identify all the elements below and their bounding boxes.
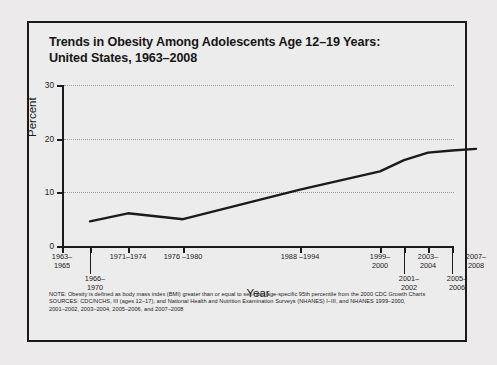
x-label-2007-2008: 2007– 2008: [466, 253, 486, 270]
x-label-1976-1980: 1976 –1980: [164, 253, 203, 262]
x-label-1971-1974: 1971–1974: [110, 253, 147, 262]
chart-title-line-1: Trends in Obesity Among Adolescents Age …: [49, 35, 380, 49]
obesity-trend-line: [90, 149, 476, 221]
x-label-1971-1974-line-1: 1971–1974: [110, 252, 147, 261]
figure-panel: Trends in Obesity Among Adolescents Age …: [27, 21, 467, 342]
x-label-1966-1970: 1966– 1970: [85, 275, 105, 292]
x-label-2003-2004-line-2: 2004: [420, 261, 436, 270]
footnote-note-line: NOTE: Obesity is defined as body mass in…: [49, 291, 453, 298]
x-label-2001-2002: 2001– 2002: [399, 275, 419, 292]
plot-area: Percent 30 20 10 0: [62, 85, 454, 246]
chart-title-line-2: United States, 1963–2008: [49, 51, 197, 65]
chart-footnote: NOTE: Obesity is defined as body mass in…: [49, 291, 453, 313]
x-label-1988-1994-line-1: 1988 –1994: [281, 252, 320, 261]
y-tick-label-10: 10: [45, 187, 54, 197]
x-label-1988-1994: 1988 –1994: [281, 253, 320, 262]
screenshot-canvas: Trends in Obesity Among Adolescents Age …: [0, 0, 497, 365]
x-label-1976-1980-line-1: 1976 –1980: [164, 252, 203, 261]
x-label-1999-2000-line-2: 2000: [372, 261, 388, 270]
y-tick-label-30: 30: [45, 80, 54, 90]
x-tick-connector-2005-2006: [452, 248, 453, 274]
y-tick-label-20: 20: [45, 134, 54, 144]
chart-title: Trends in Obesity Among Adolescents Age …: [49, 35, 449, 66]
x-label-2003-2004: 2003– 2004: [418, 253, 438, 270]
x-label-2005-2006: 2005– 2006: [447, 275, 467, 292]
x-label-1963-1965: 1963– 1965: [52, 253, 72, 270]
series-svg: [62, 85, 454, 248]
x-tick-connector-1966-1970: [90, 248, 91, 274]
y-axis-title: Percent: [26, 97, 38, 137]
x-label-2007-2008-line-2: 2008: [468, 261, 484, 270]
y-tick-label-0: 0: [49, 241, 54, 251]
footnote-sources-continued: 2001–2002, 2003–2004, 2005–2006, and 200…: [49, 306, 453, 313]
x-tick-connector-2001-2002: [404, 248, 405, 274]
x-label-1963-1965-line-2: 1965: [54, 261, 70, 270]
x-label-1999-2000: 1999– 2000: [370, 253, 390, 270]
footnote-sources-line: SOURCES: CDC/NCHS, III (ages 12–17), and…: [49, 298, 453, 305]
